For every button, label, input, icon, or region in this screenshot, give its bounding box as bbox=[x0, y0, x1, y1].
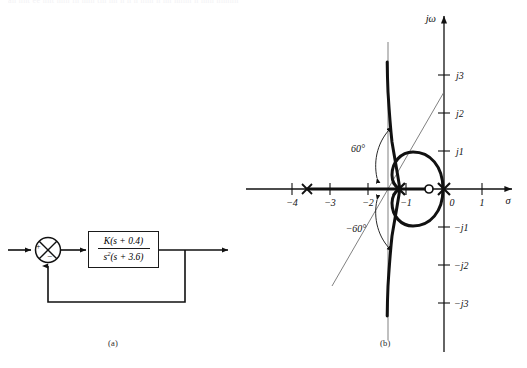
sigma-tick-label--3: −3 bbox=[324, 197, 336, 208]
transfer-function-denominator: s2(s + 3.6) bbox=[103, 249, 143, 263]
zero-marker-minus-0-4 bbox=[425, 185, 433, 193]
sigma-tick-label-0: 0 bbox=[450, 197, 455, 208]
summing-junction-plus-sign: + bbox=[36, 243, 41, 251]
jomega-tick-label--j3: −j3 bbox=[454, 298, 469, 309]
jomega-tick-label--j1: −j1 bbox=[454, 222, 469, 233]
subfigure-label-a: (a) bbox=[108, 338, 118, 348]
angle-arc-60 bbox=[376, 127, 392, 178]
sigma-tick-label--2: −2 bbox=[362, 197, 374, 208]
subfigure-label-b: (b) bbox=[380, 338, 391, 348]
jomega-tick-label-j2: j2 bbox=[454, 108, 464, 119]
denominator-rest: (s + 3.6) bbox=[110, 253, 143, 263]
angle-label-minus-60: −60° bbox=[346, 223, 367, 234]
figure-root: an nnt ee nnt nnn in nnn tm nn n n n nnn… bbox=[0, 0, 527, 368]
root-locus-panel: −4 −3 −2 −1 0 1 j3 j2 j1 −j1 −j2 −j3 σ j… bbox=[240, 0, 527, 368]
sigma-tick-label--4: −4 bbox=[286, 197, 298, 208]
sigma-axis-label: σ bbox=[505, 195, 511, 206]
angle-arc-minus-60 bbox=[376, 200, 392, 251]
jomega-tick-label-j1: j1 bbox=[454, 146, 464, 157]
sigma-tick-label--1: −1 bbox=[400, 197, 412, 208]
block-diagram-panel: K(s + 0.4) s2(s + 3.6) + − (a) bbox=[0, 210, 255, 368]
sigma-tick-labels: −4 −3 −2 −1 0 1 bbox=[286, 197, 484, 208]
plant-transfer-function-block: K(s + 0.4) s2(s + 3.6) bbox=[88, 231, 159, 268]
jomega-axis-label: jω bbox=[424, 13, 436, 24]
jomega-tick-label--j2: −j2 bbox=[454, 260, 469, 271]
angle-annotation-60: 60° bbox=[351, 127, 392, 178]
root-locus-svg: −4 −3 −2 −1 0 1 j3 j2 j1 −j1 −j2 −j3 σ j… bbox=[240, 0, 527, 368]
summing-junction-minus-sign: − bbox=[47, 252, 52, 261]
angle-label-60: 60° bbox=[351, 143, 365, 154]
jomega-tick-label-j3: j3 bbox=[454, 70, 464, 81]
transfer-function-numerator: K(s + 0.4) bbox=[104, 236, 143, 248]
sigma-tick-label-1: 1 bbox=[480, 197, 485, 208]
